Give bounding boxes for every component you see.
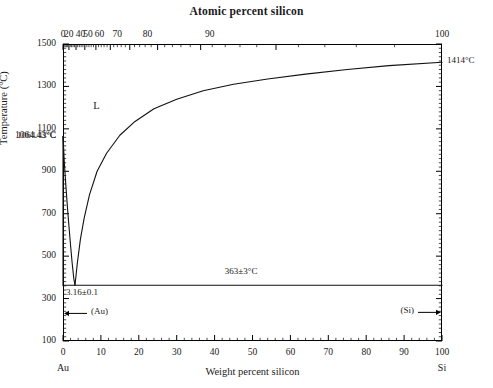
x-bottom-tick-50: 50 <box>248 348 258 358</box>
chart-title: Atomic percent silicon <box>0 6 493 18</box>
x-bottom-tick-100: 100 <box>435 348 449 358</box>
plot-area <box>63 44 442 341</box>
x-bottom-tick-90: 90 <box>399 348 409 358</box>
y-tick-300: 300 <box>42 294 56 304</box>
y-tick-500: 500 <box>42 251 56 261</box>
right-component-label: Si <box>438 363 446 373</box>
x-bottom-tick-10: 10 <box>96 348 106 358</box>
x-top-tick-100: 100 <box>435 30 449 40</box>
x-bottom-tick-20: 20 <box>134 348 144 358</box>
y-axis-title: Temperature (°C) <box>0 48 9 168</box>
y-tick-900: 900 <box>42 166 56 176</box>
phase-diagram-figure: Atomic percent silicon Temperature (°C) … <box>0 0 493 388</box>
x-top-tick-20: 20 <box>64 30 74 40</box>
x-bottom-tick-60: 60 <box>286 348 296 358</box>
au-solid-phase-label: (Au) <box>91 307 108 316</box>
y-tick-1500: 1500 <box>37 39 56 49</box>
eutectic-temperature-label: 363±3°C <box>225 267 258 276</box>
si-melting-point-label: 1414°C <box>447 56 475 65</box>
si-solid-phase-label: (Si) <box>401 306 415 315</box>
eutectic-composition-label: 3.16±0.1 <box>66 288 98 297</box>
left-component-label: Au <box>57 363 69 373</box>
x-axis-title: Weight percent silicon <box>63 366 442 377</box>
x-bottom-tick-0: 0 <box>61 348 66 358</box>
x-bottom-tick-30: 30 <box>172 348 182 358</box>
au-melting-point-label: 1064.43°C <box>17 131 56 140</box>
y-tick-100: 100 <box>42 336 56 346</box>
x-top-tick-60: 60 <box>95 30 105 40</box>
y-tick-1300: 1300 <box>37 81 56 91</box>
x-bottom-tick-80: 80 <box>361 348 371 358</box>
x-bottom-tick-40: 40 <box>210 348 220 358</box>
x-top-tick-80: 80 <box>143 30 153 40</box>
x-top-tick-50: 50 <box>83 30 93 40</box>
x-top-tick-90: 90 <box>205 30 215 40</box>
x-top-tick-70: 70 <box>112 30 122 40</box>
x-bottom-tick-70: 70 <box>324 348 334 358</box>
y-tick-700: 700 <box>42 209 56 219</box>
phase-label-liquid: L <box>93 101 99 112</box>
